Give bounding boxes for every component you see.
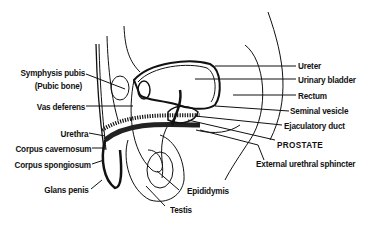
label-rectum: Rectum <box>298 91 327 101</box>
label-urethra: Urethra <box>60 129 88 139</box>
label-epididymis: Epididymis <box>187 186 229 196</box>
label-seminal-vesicle: Seminal vesicle <box>290 106 348 116</box>
label-prostate: PROSTATE <box>277 140 323 150</box>
label-testis: Testis <box>170 205 192 215</box>
label-symphysis-pubis: Symphysis pubis <box>20 68 85 78</box>
label-external-urethral-sphincter: External urethral sphincter <box>256 159 355 169</box>
label-corpus-spongiosum: Corpus spongiosum <box>14 160 91 170</box>
label-pubic-bone: (Pubic bone) <box>35 81 82 91</box>
label-glans-penis: Glans penis <box>45 185 89 195</box>
label-vas-deferens: Vas deferens <box>37 102 85 112</box>
anatomy-diagram: Symphysis pubis (Pubic bone) Vas deferen… <box>0 0 371 225</box>
label-ejaculatory-duct: Ejaculatory duct <box>284 121 345 131</box>
label-corpus-cavernosum: Corpus cavernosum <box>15 144 91 154</box>
label-urinary-bladder: Urinary bladder <box>298 75 356 85</box>
label-ureter: Ureter <box>298 61 321 71</box>
